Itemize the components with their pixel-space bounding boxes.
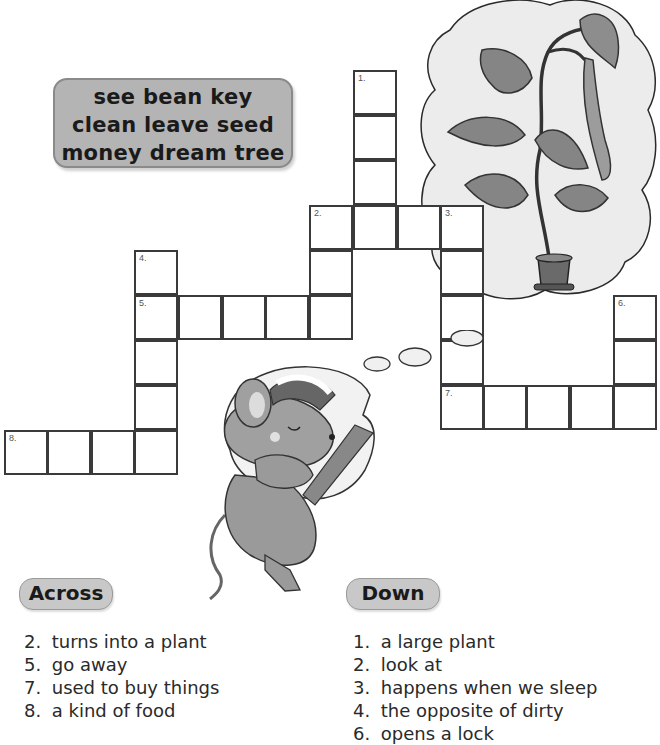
grid-cell[interactable] [353,205,397,250]
across-clue-list: 2. turns into a plant 5. go away 7. used… [24,630,219,722]
clue-number: 4. [139,253,147,263]
grid-cell[interactable] [265,295,309,340]
grid-cell[interactable] [526,385,570,430]
clue-number: 3. [445,208,453,218]
clue-number: 1. [358,73,366,83]
down-clue: 3. happens when we sleep [353,676,597,699]
word-bank-line: money dream tree [55,139,291,167]
grid-cell[interactable] [613,385,657,430]
word-bank-line: clean leave seed [55,111,291,139]
grid-cell[interactable] [570,385,614,430]
grid-cell[interactable]: 8. [4,430,48,475]
grid-cell[interactable] [483,385,527,430]
grid-cell[interactable] [134,340,178,385]
down-clue: 6. opens a lock [353,722,597,745]
grid-cell[interactable] [134,385,178,430]
clue-number: 8. [9,433,17,443]
grid-cell[interactable] [178,295,222,340]
grid-cell[interactable]: 2. [309,205,353,250]
grid-cell[interactable]: 4. [134,250,178,295]
across-clue: 2. turns into a plant [24,630,219,653]
across-clue: 5. go away [24,653,219,676]
grid-cell[interactable] [613,340,657,385]
clue-number: 6. [618,298,626,308]
grid-cell[interactable] [309,295,353,340]
grid-cell[interactable] [440,250,484,295]
grid-cell[interactable]: 5. [134,295,178,340]
grid-cell[interactable]: 7. [440,385,484,430]
word-bank-line: see bean key [55,83,291,111]
across-clue: 8. a kind of food [24,699,219,722]
grid-cell[interactable]: 6. [613,295,657,340]
down-heading: Down [346,578,440,610]
clue-number: 2. [314,208,322,218]
grid-cell[interactable] [222,295,266,340]
down-clue: 1. a large plant [353,630,597,653]
grid-cell[interactable] [134,430,178,475]
grid-cell[interactable]: 3. [440,205,484,250]
grid-cell[interactable] [309,250,353,295]
grid-cell[interactable] [91,430,135,475]
down-clue-list: 1. a large plant 2. look at 3. happens w… [353,630,597,745]
grid-cell[interactable] [353,160,397,205]
clue-number: 5. [139,298,147,308]
grid-cell[interactable] [397,205,441,250]
grid-cell[interactable] [353,115,397,160]
grid-cell[interactable] [47,430,91,475]
down-clue: 2. look at [353,653,597,676]
down-clue: 4. the opposite of dirty [353,699,597,722]
sleeping-mouse-illustration [195,355,435,600]
grid-cell[interactable]: 1. [353,70,397,115]
across-heading: Across [19,578,113,610]
across-clue: 7. used to buy things [24,676,219,699]
word-bank: see bean key clean leave seed money drea… [53,78,293,168]
